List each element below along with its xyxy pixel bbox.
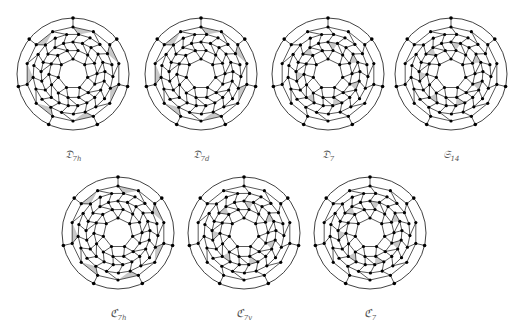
graph-figure-d7h: 𝔇7h bbox=[13, 14, 133, 164]
graph-figure-d7: 𝔇7 bbox=[268, 14, 388, 164]
graph-figure-c7: ℭ7 bbox=[310, 173, 430, 323]
symmetry-label: 𝔇7 bbox=[268, 148, 388, 163]
graph-figure-c7v: ℭ7v bbox=[184, 173, 304, 323]
graph-drawing bbox=[268, 14, 388, 134]
symmetry-label: 𝔇7h bbox=[13, 148, 133, 163]
graph-drawing bbox=[184, 173, 304, 293]
symmetry-label: 𝔖14 bbox=[391, 148, 511, 163]
symmetry-label: ℭ7v bbox=[184, 307, 304, 322]
graph-drawing bbox=[13, 14, 133, 134]
symmetry-label: ℭ7h bbox=[58, 307, 178, 322]
symmetry-label: 𝔇7d bbox=[141, 148, 261, 163]
graph-figure-d7d: 𝔇7d bbox=[141, 14, 261, 164]
graph-figure-s14: 𝔖14 bbox=[391, 14, 511, 164]
symmetry-label: ℭ7 bbox=[310, 307, 430, 322]
graph-figure-c7h: ℭ7h bbox=[58, 173, 178, 323]
graph-drawing bbox=[391, 14, 511, 134]
graph-drawing bbox=[310, 173, 430, 293]
graph-drawing bbox=[141, 14, 261, 134]
graph-drawing bbox=[58, 173, 178, 293]
